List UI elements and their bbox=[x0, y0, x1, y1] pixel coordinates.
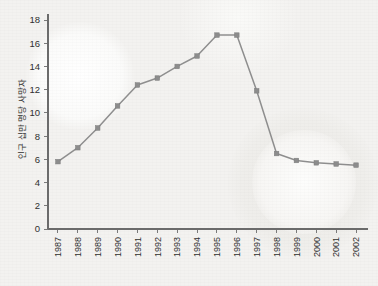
y-axis-tick-labels: 024681012141618 bbox=[29, 14, 40, 234]
y-tick-label: 8 bbox=[35, 131, 40, 142]
x-tick-label: 1997 bbox=[252, 237, 262, 257]
data-point-marker bbox=[195, 54, 200, 59]
y-tick-label: 6 bbox=[35, 154, 40, 165]
data-point-marker bbox=[76, 145, 81, 150]
data-point-marker bbox=[334, 162, 339, 167]
y-tick-label: 2 bbox=[35, 200, 40, 211]
x-tick-label: 1998 bbox=[272, 237, 282, 257]
y-tick-label: 12 bbox=[29, 84, 40, 95]
chart-page: 024681012141618 198719881989199019911992… bbox=[0, 0, 378, 286]
y-tick-label: 18 bbox=[29, 14, 40, 25]
x-tick-label: 1995 bbox=[212, 237, 222, 257]
data-point-marker bbox=[274, 151, 279, 156]
y-tick-label: 14 bbox=[29, 61, 40, 72]
data-point-marker bbox=[175, 64, 180, 69]
y-tick-label: 4 bbox=[35, 177, 40, 188]
data-point-marker bbox=[314, 161, 319, 166]
series-markers bbox=[56, 33, 359, 168]
data-point-marker bbox=[56, 159, 61, 164]
x-tick-label: 1987 bbox=[53, 237, 63, 257]
x-tick-label: 1993 bbox=[172, 237, 182, 257]
line-chart: 024681012141618 198719881989199019911992… bbox=[0, 0, 378, 286]
data-point-marker bbox=[354, 163, 359, 168]
x-tick-label: 1989 bbox=[93, 237, 103, 257]
y-axis-title: 인구 십만 명당 사망자 bbox=[17, 79, 27, 159]
data-point-marker bbox=[155, 76, 160, 81]
x-axis-ticks bbox=[58, 229, 356, 233]
data-point-marker bbox=[95, 126, 100, 131]
x-tick-label: 2002 bbox=[351, 237, 361, 257]
x-tick-label: 2001 bbox=[331, 237, 341, 257]
data-point-marker bbox=[215, 33, 220, 38]
data-point-marker bbox=[254, 89, 259, 94]
x-tick-label: 1992 bbox=[153, 237, 163, 257]
y-axis-ticks bbox=[44, 20, 48, 229]
x-tick-label: 1990 bbox=[113, 237, 123, 257]
x-tick-label: 1996 bbox=[232, 237, 242, 257]
y-axis-title-text: 인구 십만 명당 사망자 bbox=[17, 79, 27, 159]
x-tick-label: 1994 bbox=[192, 237, 202, 257]
data-point-marker bbox=[115, 104, 120, 109]
x-tick-label: 1991 bbox=[133, 237, 143, 257]
x-tick-label: 1999 bbox=[292, 237, 302, 257]
data-point-marker bbox=[235, 33, 240, 38]
y-tick-label: 16 bbox=[29, 38, 40, 49]
x-axis-tick-labels: 1987198819891990199119921993199419951996… bbox=[53, 237, 361, 257]
y-tick-label: 0 bbox=[35, 223, 40, 234]
x-tick-label: 2000 bbox=[312, 237, 322, 257]
y-tick-label: 10 bbox=[29, 107, 40, 118]
data-point-marker bbox=[294, 158, 299, 163]
x-tick-label: 1988 bbox=[73, 237, 83, 257]
data-point-marker bbox=[135, 83, 140, 88]
series-line-deaths bbox=[58, 35, 356, 165]
